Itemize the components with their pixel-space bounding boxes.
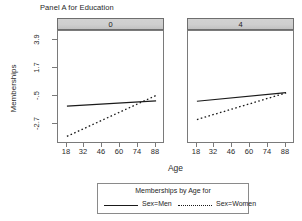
facet-panel-1-plot [188, 31, 294, 143]
legend-title: Memberships by Age for [98, 187, 248, 194]
x-tick-label: 32 [76, 147, 90, 156]
x-tick-label: 18 [189, 147, 203, 156]
chart-root: Panel A for Education Memberships 3.9 1.… [0, 0, 302, 221]
x-tick-label: 18 [59, 147, 73, 156]
facet-strip-1: 4 [187, 18, 294, 30]
series-line-men [197, 93, 286, 102]
y-tick-label: 3.9 [32, 29, 41, 51]
x-tick-label: 60 [242, 147, 256, 156]
x-axis-label: Age [57, 163, 294, 173]
x-tick-label: 74 [260, 147, 274, 156]
facet-panel-1 [187, 30, 294, 143]
x-tick-label: 88 [278, 147, 292, 156]
facet-panel-0-plot [58, 31, 164, 143]
y-axis-label: Memberships [9, 54, 18, 124]
page-title: Panel A for Education [40, 3, 114, 12]
x-tick-label: 74 [130, 147, 144, 156]
facet-panel-0 [57, 30, 164, 143]
legend-key-women-icon [178, 205, 212, 206]
legend-label-women: Sex=Women [216, 200, 256, 207]
y-tick-label: 1.7 [32, 57, 41, 79]
y-tick-label: -.5 [32, 85, 41, 107]
legend-label-men: Sex=Men [142, 200, 172, 207]
legend-entries: Sex=Men Sex=Women [98, 200, 248, 212]
y-tick-label: -2.7 [32, 113, 41, 135]
x-tick-label: 88 [148, 147, 162, 156]
x-tick-label: 60 [112, 147, 126, 156]
x-tick-label: 32 [206, 147, 220, 156]
x-tick-label: 46 [224, 147, 238, 156]
x-tick-label: 46 [94, 147, 108, 156]
legend-key-men-icon [104, 205, 138, 206]
facet-strip-0: 0 [57, 18, 164, 30]
series-line-men [67, 101, 156, 106]
legend: Memberships by Age for Sex=Men Sex=Women [97, 183, 249, 214]
